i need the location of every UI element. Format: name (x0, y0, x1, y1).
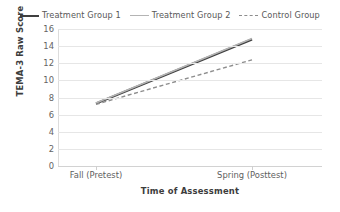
y-axis-tick-label: 6 (32, 110, 54, 120)
y-axis-tick-label: 16 (32, 24, 54, 34)
y-axis-tick-label: 8 (32, 93, 54, 103)
gridline (58, 29, 322, 30)
gridline (58, 98, 322, 99)
x-axis-tick-label-spring: Spring (Posttest) (197, 170, 307, 180)
line-chart: Treatment Group 1 Treatment Group 2 Cont… (0, 0, 340, 212)
x-axis-title: Time of Assessment (58, 186, 322, 196)
legend-label-control-group: Control Group (261, 10, 319, 20)
legend-label-treatment-group-1: Treatment Group 1 (42, 10, 121, 20)
chart-legend: Treatment Group 1 Treatment Group 2 Cont… (0, 6, 340, 24)
gridline (58, 63, 322, 64)
gridline (58, 132, 322, 133)
y-axis-tick-labels: 1614121086420 (30, 29, 54, 166)
y-axis-title: TEMA-3 Raw Score (15, 0, 25, 103)
gridline (58, 46, 322, 47)
gridline (58, 115, 322, 116)
legend-entry-control-group: Control Group (239, 10, 319, 20)
plot-area (58, 29, 322, 166)
legend-swatch-dashed-icon (239, 12, 258, 19)
y-axis-tick-label: 14 (32, 41, 54, 51)
gridline (58, 80, 322, 81)
gridline (58, 149, 322, 150)
legend-label-treatment-group-2: Treatment Group 2 (152, 10, 231, 20)
legend-entry-treatment-group-2: Treatment Group 2 (130, 10, 231, 20)
series-line (96, 38, 252, 103)
y-axis-tick-label: 4 (32, 127, 54, 137)
legend-entry-treatment-group-1: Treatment Group 1 (20, 10, 121, 20)
x-axis-tick-label-fall: Fall (Pretest) (41, 170, 151, 180)
gridline (58, 166, 322, 167)
legend-swatch-solid-light-icon (130, 12, 149, 19)
y-axis-tick-label: 2 (32, 144, 54, 154)
y-axis-tick-label: 12 (32, 58, 54, 68)
y-axis-tick-label: 10 (32, 75, 54, 85)
